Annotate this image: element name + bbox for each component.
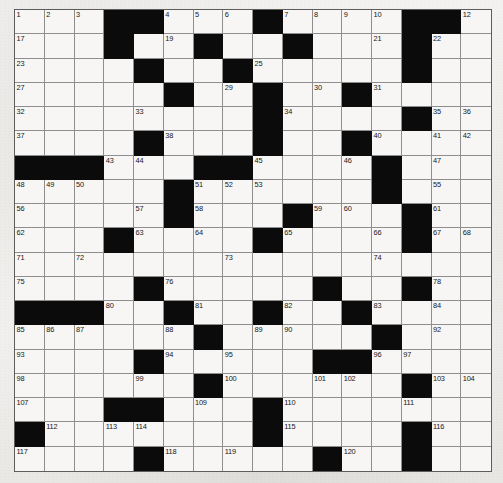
crossword-cell[interactable]: 49 [45, 180, 75, 204]
crossword-cell[interactable]: 37 [15, 131, 45, 155]
crossword-cell[interactable]: 65 [283, 228, 313, 252]
crossword-cell[interactable] [104, 180, 134, 204]
crossword-cell[interactable] [313, 422, 343, 446]
crossword-cell[interactable]: 29 [223, 83, 253, 107]
crossword-cell[interactable] [432, 59, 462, 83]
crossword-cell[interactable]: 100 [223, 374, 253, 398]
crossword-cell[interactable] [372, 59, 402, 83]
crossword-cell[interactable]: 115 [283, 422, 313, 446]
crossword-cell[interactable] [402, 180, 432, 204]
crossword-cell[interactable] [194, 253, 224, 277]
crossword-cell[interactable] [313, 34, 343, 58]
crossword-cell[interactable]: 85 [15, 325, 45, 349]
crossword-cell[interactable] [45, 34, 75, 58]
crossword-cell[interactable] [283, 131, 313, 155]
crossword-cell[interactable]: 31 [372, 83, 402, 107]
crossword-cell[interactable]: 113 [104, 422, 134, 446]
crossword-cell[interactable]: 22 [432, 34, 462, 58]
crossword-cell[interactable]: 88 [164, 325, 194, 349]
crossword-cell[interactable] [164, 253, 194, 277]
crossword-cell[interactable]: 84 [432, 301, 462, 325]
crossword-cell[interactable]: 57 [134, 204, 164, 228]
crossword-cell[interactable] [194, 59, 224, 83]
crossword-cell[interactable] [342, 180, 372, 204]
crossword-cell[interactable]: 19 [164, 34, 194, 58]
crossword-cell[interactable]: 90 [283, 325, 313, 349]
crossword-cell[interactable] [45, 277, 75, 301]
crossword-cell[interactable]: 36 [461, 107, 491, 131]
crossword-cell[interactable]: 89 [253, 325, 283, 349]
crossword-cell[interactable] [253, 350, 283, 374]
crossword-cell[interactable] [253, 253, 283, 277]
crossword-cell[interactable] [223, 131, 253, 155]
crossword-cell[interactable]: 96 [372, 350, 402, 374]
crossword-cell[interactable]: 1 [15, 10, 45, 34]
crossword-cell[interactable]: 116 [432, 422, 462, 446]
crossword-cell[interactable]: 83 [372, 301, 402, 325]
crossword-cell[interactable] [342, 228, 372, 252]
crossword-cell[interactable] [342, 325, 372, 349]
crossword-cell[interactable] [45, 447, 75, 471]
crossword-cell[interactable] [313, 228, 343, 252]
crossword-cell[interactable]: 62 [15, 228, 45, 252]
crossword-cell[interactable]: 7 [283, 10, 313, 34]
crossword-cell[interactable] [461, 277, 491, 301]
crossword-cell[interactable] [75, 398, 105, 422]
crossword-cell[interactable] [342, 34, 372, 58]
crossword-cell[interactable]: 59 [313, 204, 343, 228]
crossword-cell[interactable] [194, 422, 224, 446]
crossword-cell[interactable] [75, 34, 105, 58]
crossword-cell[interactable] [283, 83, 313, 107]
crossword-cell[interactable] [104, 350, 134, 374]
crossword-cell[interactable] [253, 204, 283, 228]
crossword-cell[interactable]: 6 [223, 10, 253, 34]
crossword-cell[interactable] [45, 83, 75, 107]
crossword-cell[interactable]: 86 [45, 325, 75, 349]
crossword-cell[interactable]: 104 [461, 374, 491, 398]
crossword-cell[interactable]: 43 [104, 156, 134, 180]
crossword-cell[interactable] [402, 131, 432, 155]
crossword-cell[interactable] [45, 350, 75, 374]
crossword-cell[interactable] [313, 253, 343, 277]
crossword-cell[interactable] [104, 83, 134, 107]
crossword-cell[interactable]: 4 [164, 10, 194, 34]
crossword-cell[interactable] [283, 59, 313, 83]
crossword-cell[interactable] [134, 180, 164, 204]
crossword-cell[interactable] [432, 447, 462, 471]
crossword-cell[interactable]: 81 [194, 301, 224, 325]
crossword-cell[interactable] [342, 107, 372, 131]
crossword-cell[interactable] [75, 228, 105, 252]
crossword-cell[interactable] [283, 447, 313, 471]
crossword-cell[interactable] [283, 374, 313, 398]
crossword-cell[interactable]: 42 [461, 131, 491, 155]
crossword-cell[interactable] [164, 107, 194, 131]
crossword-cell[interactable]: 95 [223, 350, 253, 374]
crossword-cell[interactable] [104, 204, 134, 228]
crossword-cell[interactable] [164, 156, 194, 180]
crossword-cell[interactable]: 120 [342, 447, 372, 471]
crossword-cell[interactable]: 56 [15, 204, 45, 228]
crossword-cell[interactable] [75, 277, 105, 301]
crossword-cell[interactable] [461, 350, 491, 374]
crossword-cell[interactable] [223, 398, 253, 422]
crossword-cell[interactable] [372, 374, 402, 398]
crossword-cell[interactable]: 38 [164, 131, 194, 155]
crossword-cell[interactable] [461, 180, 491, 204]
crossword-cell[interactable] [134, 253, 164, 277]
crossword-cell[interactable] [75, 131, 105, 155]
crossword-cell[interactable]: 63 [134, 228, 164, 252]
crossword-cell[interactable]: 17 [15, 34, 45, 58]
crossword-cell[interactable] [223, 107, 253, 131]
crossword-cell[interactable]: 46 [342, 156, 372, 180]
crossword-cell[interactable]: 76 [164, 277, 194, 301]
crossword-cell[interactable] [223, 204, 253, 228]
crossword-cell[interactable]: 99 [134, 374, 164, 398]
crossword-cell[interactable] [313, 156, 343, 180]
crossword-cell[interactable] [432, 83, 462, 107]
crossword-cell[interactable]: 12 [461, 10, 491, 34]
crossword-cell[interactable] [194, 277, 224, 301]
crossword-cell[interactable]: 82 [283, 301, 313, 325]
crossword-cell[interactable] [45, 59, 75, 83]
crossword-cell[interactable] [313, 131, 343, 155]
crossword-cell[interactable] [461, 325, 491, 349]
